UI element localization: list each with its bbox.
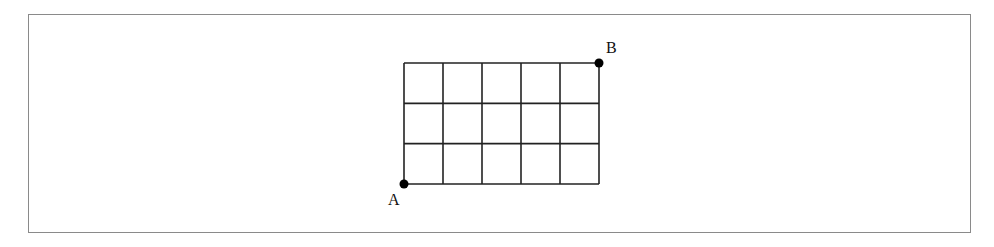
point-a-label: A (388, 192, 400, 208)
grid-diagram (0, 0, 994, 247)
point-b-dot (595, 59, 604, 68)
grid-lines (404, 63, 599, 184)
point-b-label: B (606, 40, 617, 56)
point-a-dot (400, 180, 409, 189)
